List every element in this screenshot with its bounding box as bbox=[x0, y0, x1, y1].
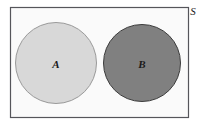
set-a-label: A bbox=[51, 58, 59, 70]
universal-set-label: S bbox=[190, 5, 196, 17]
venn-diagram-canvas: A B S bbox=[0, 0, 208, 124]
set-b-label: B bbox=[137, 58, 145, 70]
venn-diagram-figure: A B S bbox=[0, 0, 208, 124]
